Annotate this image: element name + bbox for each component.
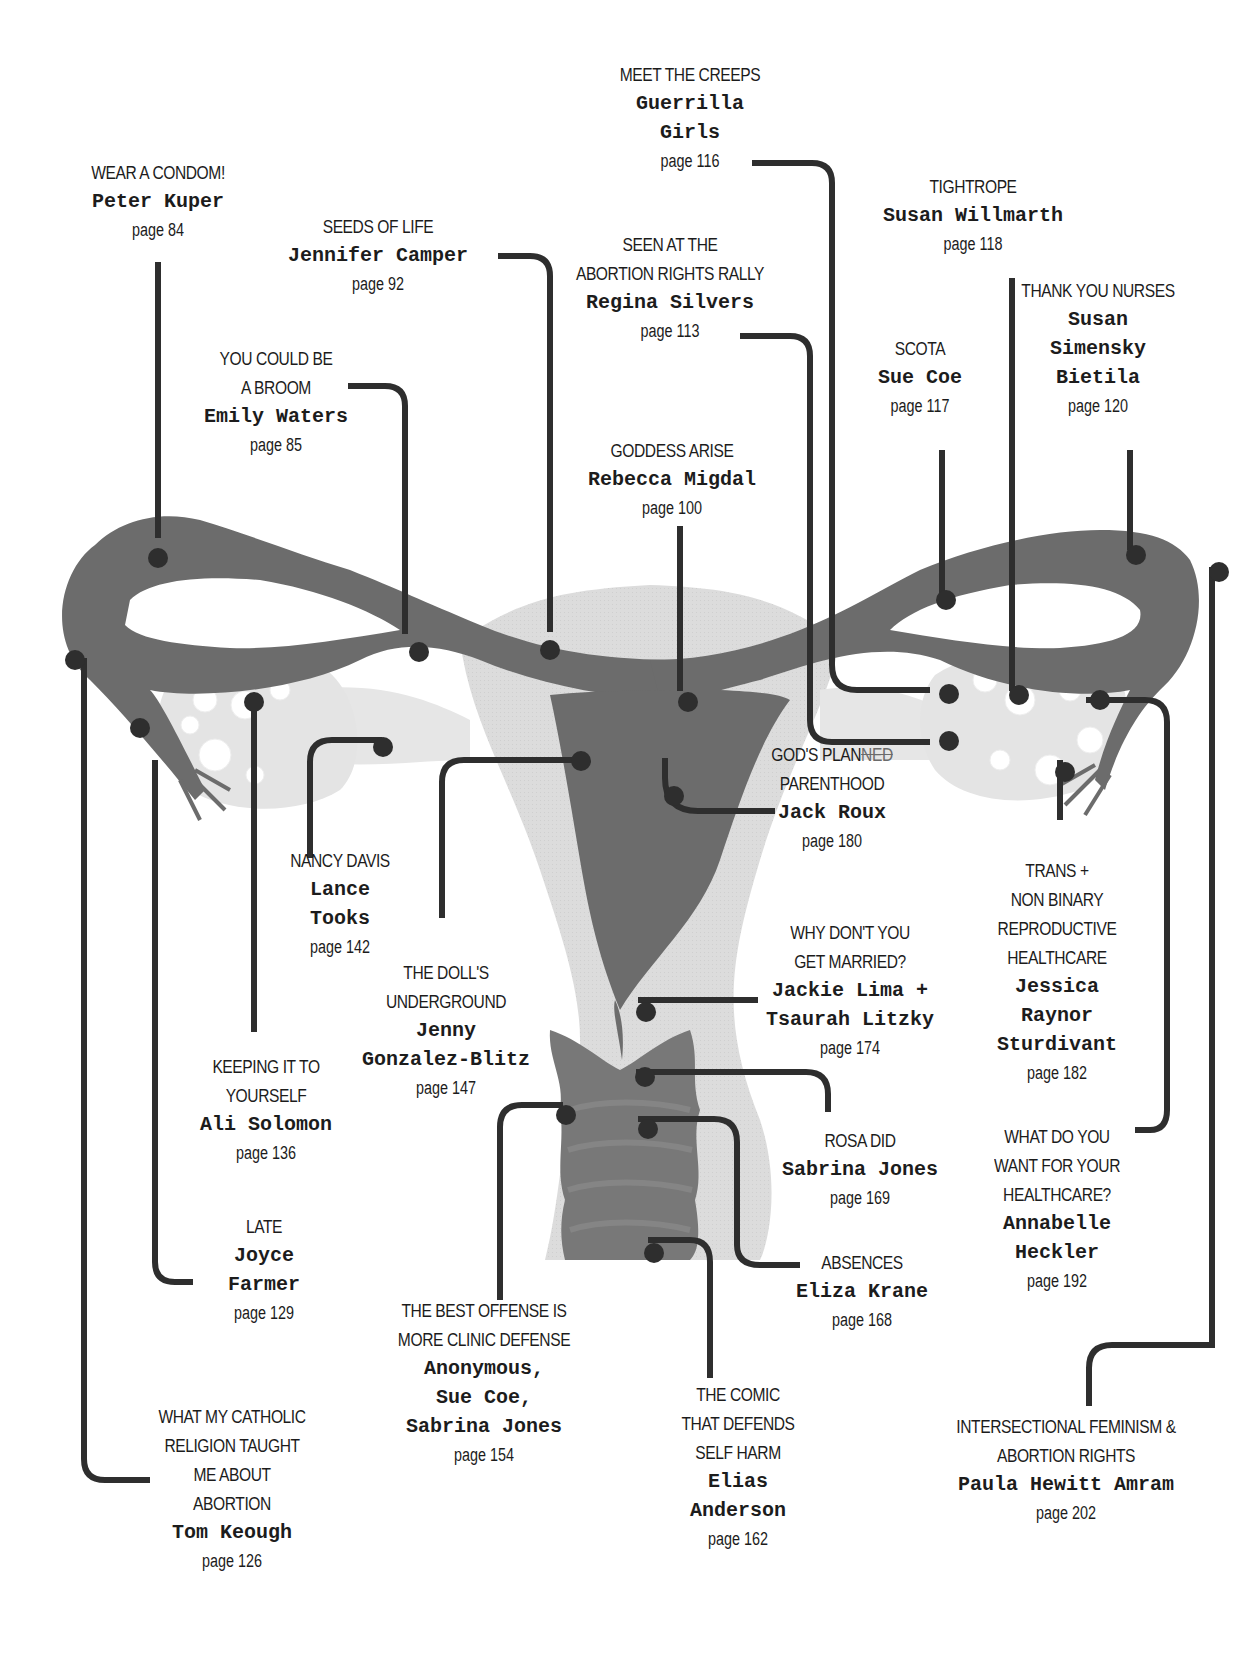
entry-artist: Jack Roux [758,798,906,827]
entry-title: KEEPING IT TO [212,1052,320,1081]
entry-title: SEEN AT THE [576,230,764,259]
entry-title: WHAT MY CATHOLIC [158,1402,305,1431]
entry-title: NON BINARY [998,885,1117,914]
entry-you-could-be-a-broom[interactable]: YOU COULD BE A BROOM Emily Waters page 8… [204,344,348,459]
entry-artist: Simensky [1005,334,1192,363]
entry-page: page 129 [234,1299,294,1327]
entry-title: REPRODUCTIVE [998,914,1117,943]
entry-why-dont-you-get-married[interactable]: WHY DON'T YOU GET MARRIED? Jackie Lima +… [766,918,934,1062]
entry-artist: Joyce [226,1241,301,1270]
entry-artist: Bietila [1005,363,1192,392]
entry-page: page 192 [996,1267,1119,1295]
entry-title: SCOTA [886,334,955,363]
entry-artist: Tom Keough [142,1518,322,1547]
entry-title: YOURSELF [212,1081,320,1110]
entry-title: HEALTHCARE? [994,1180,1120,1209]
entry-page: page 142 [291,933,388,961]
entry-catholic-religion[interactable]: WHAT MY CATHOLIC RELIGION TAUGHT ME ABOU… [142,1402,322,1575]
entry-tightrope[interactable]: TIGHTROPE Susan Willmarth page 118 [883,172,1063,258]
entry-page: page 174 [783,1034,917,1062]
entry-artist: Jenny [362,1016,530,1045]
entry-title: TRANS + [998,856,1117,885]
entry-title: PARENTHOOD [771,769,892,798]
entry-artist: Tsaurah Litzky [766,1005,934,1034]
entry-what-do-you-want[interactable]: WHAT DO YOU WANT FOR YOUR HEALTHCARE? An… [980,1122,1134,1295]
entry-title: ME ABOUT [158,1460,305,1489]
entry-title: THAT DEFENDS [681,1409,794,1438]
entry-artist: Peter Kuper [77,187,240,216]
entry-title: THE DOLL'S [377,958,515,987]
entry-title: ABSENCES [808,1248,916,1277]
entry-artist: Rebecca Migdal [588,465,756,494]
entry-artist: Jennifer Camper [288,241,468,270]
entry-page: page 136 [213,1139,319,1167]
entry-title: SELF HARM [681,1438,794,1467]
entry-absences[interactable]: ABSENCES Eliza Krane page 168 [796,1248,928,1334]
entry-goddess-arise[interactable]: GODDESS ARISE Rebecca Migdal page 100 [588,436,756,522]
entry-title: MORE CLINIC DEFENSE [398,1325,570,1354]
entry-artist: Lance [279,875,401,904]
entry-artist: Sturdivant [985,1030,1130,1059]
entry-artist: Anderson [669,1496,807,1525]
entry-page: page 182 [999,1059,1115,1087]
entry-page: page 126 [160,1547,304,1575]
entry-title: ABORTION RIGHTS RALLY [576,259,764,288]
entry-title: LATE [233,1212,295,1241]
entry-best-offense[interactable]: THE BEST OFFENSE IS MORE CLINIC DEFENSE … [379,1296,589,1469]
entry-artist: Susan [1005,305,1192,334]
entry-title: ROSA DID [796,1126,924,1155]
entry-page: page 120 [1023,392,1173,420]
entry-title: TIGHTROPE [899,172,1047,201]
entry-page: page 117 [886,392,953,420]
entry-dolls-underground[interactable]: THE DOLL'S UNDERGROUND Jenny Gonzalez-Bl… [362,958,530,1102]
entry-intersectional-feminism[interactable]: INTERSECTIONAL FEMINISM & ABORTION RIGHT… [932,1412,1200,1527]
entry-page: page 147 [379,1074,513,1102]
entry-scota[interactable]: SCOTA Sue Coe page 117 [878,334,962,420]
entry-title: NANCY DAVIS [290,846,390,875]
entry-artist: Sabrina Jones [379,1412,589,1441]
entry-artist: Jessica [985,972,1130,1001]
entry-title: WHAT DO YOU [994,1122,1120,1151]
entry-artist: Farmer [226,1270,301,1299]
entry-page: page 180 [773,827,892,855]
entry-trans-non-binary[interactable]: TRANS + NON BINARY REPRODUCTIVE HEALTHCA… [985,856,1130,1087]
entry-page: page 202 [959,1499,1173,1527]
entry-page: page 85 [218,431,333,459]
entry-title: GOD'S PLANNED [771,740,892,769]
entry-rosa-did[interactable]: ROSA DID Sabrina Jones page 169 [782,1126,938,1212]
uterus-contents-diagram: WEAR A CONDOM! Peter Kuper page 84 SEEDS… [0,0,1251,1653]
entry-meet-the-creeps[interactable]: MEET THE CREEPS Guerrilla Girls page 116 [604,60,775,175]
entry-keeping-it-to-yourself[interactable]: KEEPING IT TO YOURSELF Ali Solomon page … [200,1052,332,1167]
entry-title: THE COMIC [681,1380,794,1409]
entry-title: WANT FOR YOUR [994,1151,1120,1180]
entry-page: page 92 [306,270,450,298]
entry-page: page 162 [683,1525,793,1553]
entry-title: MEET THE CREEPS [620,60,760,89]
entry-seeds-of-life[interactable]: SEEDS OF LIFE Jennifer Camper page 92 [288,212,468,298]
entry-title: WHY DON'T YOU [781,918,919,947]
struck-text: NED [861,744,893,765]
entry-late[interactable]: LATE Joyce Farmer page 129 [226,1212,301,1327]
entry-title: ABORTION [158,1489,305,1518]
entry-artist: Gonzalez-Blitz [362,1045,530,1074]
entry-wear-a-condom[interactable]: WEAR A CONDOM! Peter Kuper page 84 [77,158,240,244]
entry-artist: Guerrilla [604,89,775,118]
entry-page: page 100 [605,494,739,522]
entry-title: ABORTION RIGHTS [956,1441,1175,1470]
entry-artist: Elias [669,1467,807,1496]
entry-title: THE BEST OFFENSE IS [398,1296,570,1325]
entry-title: A BROOM [217,373,335,402]
entry-thank-you-nurses[interactable]: THANK YOU NURSES Susan Simensky Bietila … [1005,276,1192,420]
entry-artist: Jackie Lima + [766,976,934,1005]
entry-artist: Annabelle [980,1209,1134,1238]
entry-artist: Tooks [279,904,401,933]
entry-title: GODDESS ARISE [603,436,741,465]
entry-gods-planned-parenthood[interactable]: GOD'S PLANNED PARENTHOOD Jack Roux page … [758,740,906,855]
entry-page: page 169 [798,1184,923,1212]
entry-title: WEAR A CONDOM! [91,158,225,187]
entry-nancy-davis[interactable]: NANCY DAVIS Lance Tooks page 142 [279,846,401,961]
entry-comic-self-harm[interactable]: THE COMIC THAT DEFENDS SELF HARM Elias A… [669,1380,807,1553]
entry-title: SEEDS OF LIFE [304,212,452,241]
entry-seen-at-the-rally[interactable]: SEEN AT THE ABORTION RIGHTS RALLY Regina… [555,230,785,345]
entry-page: page 118 [901,230,1045,258]
